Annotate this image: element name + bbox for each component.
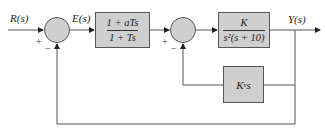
compensator-block: 1 + aTs 1 + Ts xyxy=(95,12,150,48)
fraction-bar xyxy=(223,30,264,31)
plant-numerator: K xyxy=(240,17,247,28)
input-signal-label: R(s) xyxy=(10,13,28,24)
velocity-feedback-block: Kvs xyxy=(223,66,264,103)
summing-junction-1 xyxy=(44,17,70,43)
plant-denominator: s²(s + 10) xyxy=(223,32,264,43)
sum1-plus-sign: + xyxy=(36,37,42,47)
sum1-minus-sign: − xyxy=(45,44,51,54)
summing-junction-2 xyxy=(170,17,196,43)
plant-block: K s²(s + 10) xyxy=(218,12,270,48)
plant-transfer-function: K s²(s + 10) xyxy=(223,17,264,42)
output-signal-label: Y(s) xyxy=(288,14,306,25)
compensator-transfer-function: 1 + aTs 1 + Ts xyxy=(107,17,139,42)
fraction-bar xyxy=(107,30,139,31)
velocity-feedback-gain: Kvs xyxy=(236,79,251,91)
error-signal-label: E(s) xyxy=(72,13,90,24)
sum2-minus-sign: − xyxy=(171,44,177,54)
compensator-denominator: 1 + Ts xyxy=(109,32,136,43)
sum2-plus-sign: + xyxy=(162,37,168,47)
compensator-numerator: 1 + aTs xyxy=(107,17,139,28)
